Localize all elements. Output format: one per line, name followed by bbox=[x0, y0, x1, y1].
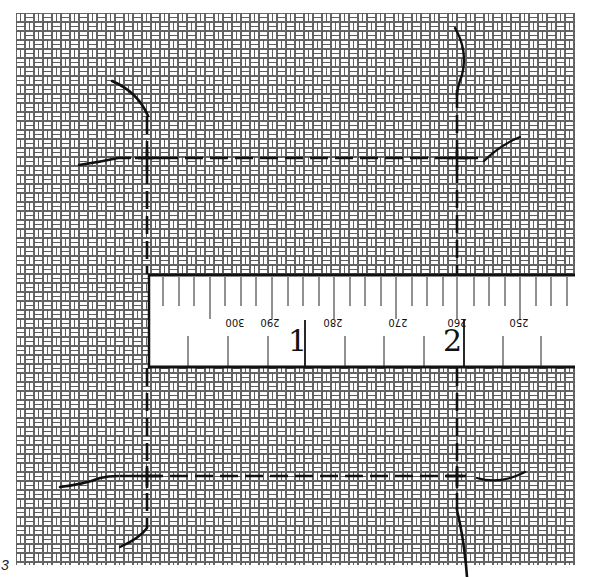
scale-label-250: 250 bbox=[509, 317, 528, 328]
scale-label-270: 270 bbox=[388, 317, 407, 328]
marker-numeral-2: 2 bbox=[443, 323, 462, 358]
weave-ruler-figure: 300 290 280 270 260 250 1 2 bbox=[0, 0, 589, 577]
figure-number: 3 bbox=[1, 557, 9, 573]
scale-label-280: 280 bbox=[323, 317, 342, 328]
scale-label-290: 290 bbox=[260, 317, 279, 328]
ruler: 300 290 280 270 260 250 1 2 bbox=[148, 274, 575, 368]
scale-label-300: 300 bbox=[225, 317, 244, 328]
marker-numeral-1: 1 bbox=[288, 323, 307, 358]
